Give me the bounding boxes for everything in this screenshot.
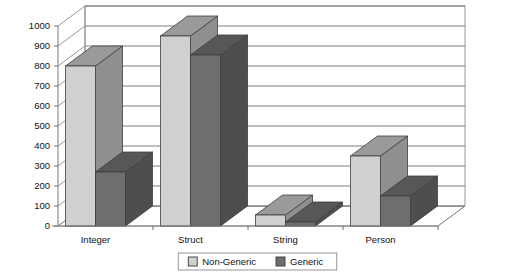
depth-connector: [58, 26, 85, 46]
y-axis-tick-label: 800: [34, 60, 50, 71]
bar-front-face: [286, 222, 316, 226]
y-axis-tick-label: 900: [34, 40, 50, 51]
chart-container: 01002003004005006007008009001000 Integer…: [0, 0, 508, 277]
bar-chart-3d: 01002003004005006007008009001000 Integer…: [0, 0, 508, 277]
x-axis-category-label: Integer: [81, 234, 111, 245]
y-axis-tick-labels: 01002003004005006007008009001000: [29, 20, 58, 231]
y-axis-tick-label: 0: [45, 220, 50, 231]
bar-side-face: [221, 35, 248, 226]
bar-front-face: [66, 66, 96, 226]
bar-front-face: [256, 215, 286, 226]
y-axis-tick-label: 300: [34, 160, 50, 171]
y-axis-tick-label: 400: [34, 140, 50, 151]
x-axis-category-labels: IntegerStructStringPerson: [81, 226, 438, 245]
y-axis-tick-label: 200: [34, 180, 50, 191]
legend-label: Non-Generic: [202, 256, 256, 267]
legend-swatch: [276, 257, 285, 266]
legend-label: Generic: [290, 256, 324, 267]
bar-struct-generic: [191, 35, 248, 226]
bar-front-face: [191, 55, 221, 226]
bar-front-face: [161, 36, 191, 226]
x-axis-category-label: Struct: [178, 234, 203, 245]
bar-front-face: [381, 196, 411, 226]
bar-front-face: [96, 172, 126, 226]
x-axis-category-label: String: [273, 234, 298, 245]
y-axis-tick-label: 100: [34, 200, 50, 211]
y-axis-tick-label: 600: [34, 100, 50, 111]
legend-swatch: [188, 257, 197, 266]
y-axis-tick-label: 1000: [29, 20, 50, 31]
y-axis-tick-label: 700: [34, 80, 50, 91]
y-axis-tick-label: 500: [34, 120, 50, 131]
bar-front-face: [351, 156, 381, 226]
depth-connector: [58, 6, 85, 26]
legend-item-generic[interactable]: Generic: [276, 256, 324, 267]
x-axis-category-label: Person: [365, 234, 395, 245]
chart-legend: Non-GenericGeneric: [178, 253, 337, 270]
